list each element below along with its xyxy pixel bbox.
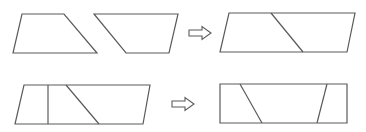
diagram-canvas [0,0,366,132]
trapezoid-right-outline [94,14,178,53]
parallelogram-cut [15,85,150,124]
cut-line [317,84,327,123]
trapezoid-left [13,14,97,53]
rectangle-result [220,84,347,123]
cut-line [240,84,262,123]
rectangle-result-outline [220,84,347,123]
arrow-right-icon [172,98,194,111]
trapezoid-left-outline [13,14,97,53]
arrow-right-icon [189,27,211,40]
cut-line [271,13,303,52]
parallelogram-combined [220,13,355,52]
cut-line [66,85,99,124]
trapezoid-right [94,14,178,53]
